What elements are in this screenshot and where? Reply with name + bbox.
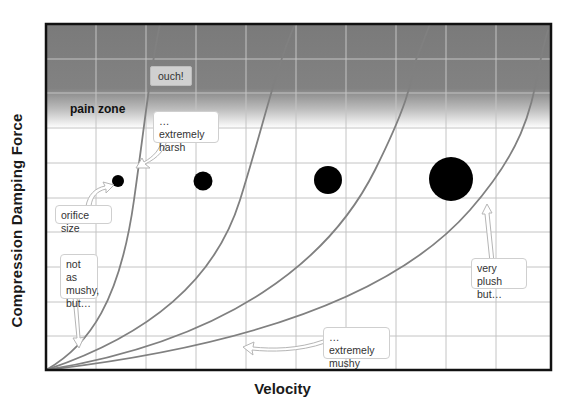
- x-axis-label: Velocity: [0, 380, 565, 397]
- callout-extremely-mushy: … extremely mushy: [323, 327, 390, 359]
- pain-zone-label: pain zone: [70, 102, 125, 116]
- callout-ouch: ouch!: [150, 66, 192, 86]
- orifice-dot-2: [194, 172, 213, 191]
- y-axis-label-text: Compression Damping Force: [8, 113, 25, 327]
- orifice-dot-3: [314, 166, 342, 194]
- orifice-dot-4: [429, 157, 473, 201]
- callout-very-plush: very plush but…: [471, 258, 527, 289]
- damping-diagram: [0, 0, 565, 405]
- y-axis-label: Compression Damping Force: [2, 100, 30, 340]
- callout-extremely-harsh: … extremely harsh: [153, 111, 219, 143]
- callout-orifice-size: orifice size: [55, 205, 112, 224]
- callout-not-as-mushy: not as mushy, but…: [60, 254, 98, 299]
